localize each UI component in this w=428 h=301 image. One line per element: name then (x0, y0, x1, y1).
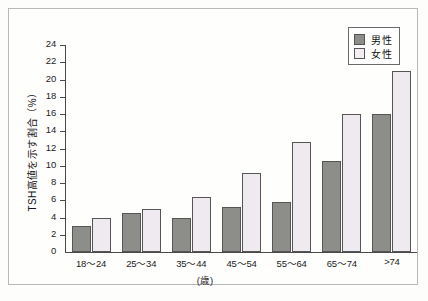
bar-male (172, 218, 191, 253)
x-axis-label: 55〜64 (267, 256, 317, 270)
figure: TSH高値を示す割合（%） 242220181614121086420 18〜2… (0, 0, 428, 301)
bar-group (66, 45, 116, 252)
bar-male (272, 202, 291, 252)
bar-groups (66, 45, 417, 252)
y-tick-mark (60, 183, 65, 184)
legend-label: 男性 (371, 32, 392, 47)
y-tick-label: 8 (51, 176, 56, 187)
bar-female (292, 142, 311, 252)
y-tick-label: 14 (46, 124, 56, 135)
x-axis-labels: 18〜2425〜3435〜4445〜5455〜6465〜74>74 (66, 256, 417, 272)
y-tick-mark (60, 149, 65, 150)
bar-male (372, 114, 391, 252)
bar-female (392, 71, 411, 252)
bar-female (192, 197, 211, 252)
legend: 男性女性 (348, 27, 400, 65)
y-tick-label: 6 (51, 193, 56, 204)
bar-group (116, 45, 166, 252)
male-swatch (354, 34, 365, 45)
y-axis-title: TSH高値を示す割合（%） (23, 45, 39, 253)
y-tick-label: 2 (51, 228, 56, 239)
y-tick-mark (60, 80, 65, 81)
y-tick-label: 22 (46, 55, 56, 66)
bar-male (322, 161, 341, 252)
y-tick-mark (60, 45, 65, 46)
y-tick-mark (60, 97, 65, 98)
x-axis-label: 45〜54 (216, 256, 266, 270)
y-tick-label: 20 (46, 73, 56, 84)
x-axis-label: 18〜24 (66, 256, 116, 270)
x-axis-label: 25〜34 (116, 256, 166, 270)
y-axis-title-text: TSH高値を示す割合（%） (24, 87, 39, 211)
x-axis-label: >74 (367, 256, 417, 267)
legend-entry: 女性 (354, 46, 392, 60)
y-tick-mark (60, 114, 65, 115)
bar-female (142, 209, 161, 252)
legend-entry: 男性 (354, 32, 392, 46)
figure-frame: TSH高値を示す割合（%） 242220181614121086420 18〜2… (8, 8, 418, 285)
y-tick-mark (60, 62, 65, 63)
bar-female (92, 218, 111, 253)
y-tick-label: 10 (46, 159, 56, 170)
bar-female (242, 173, 261, 252)
bar-male (72, 226, 91, 252)
y-tick-mark (60, 200, 65, 201)
bar-female (342, 114, 361, 252)
y-tick-label: 16 (46, 107, 56, 118)
bar-male (222, 207, 241, 252)
y-tick-label: 12 (46, 142, 56, 153)
bar-group (317, 45, 367, 252)
y-tick-label: 4 (51, 211, 56, 222)
legend-label: 女性 (371, 46, 392, 61)
x-axis-line (65, 252, 417, 253)
x-axis-title: (歳) (9, 273, 428, 287)
bar-group (367, 45, 417, 252)
x-axis-title-text: (歳) (197, 275, 213, 286)
bar-group (166, 45, 216, 252)
y-tick-label: 0 (51, 245, 56, 256)
x-axis-label: 65〜74 (317, 256, 367, 270)
bar-group (267, 45, 317, 252)
y-tick-mark (60, 235, 65, 236)
female-swatch (354, 48, 365, 59)
bar-group (216, 45, 266, 252)
y-tick-mark (60, 218, 65, 219)
bar-male (122, 213, 141, 252)
x-axis-label: 35〜44 (166, 256, 216, 270)
y-tick-label: 24 (46, 38, 56, 49)
y-tick-label: 18 (46, 90, 56, 101)
y-tick-mark (60, 131, 65, 132)
y-tick-mark (60, 166, 65, 167)
